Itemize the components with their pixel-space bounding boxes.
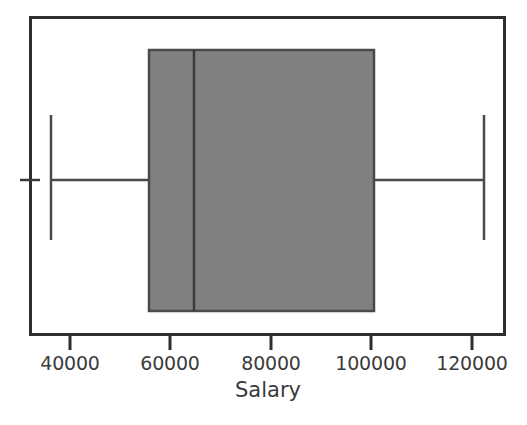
x-tick-label-100000: 100000 xyxy=(335,352,406,374)
iqr-box xyxy=(149,50,374,311)
x-tick-label-120000: 120000 xyxy=(436,352,507,374)
x-axis-ticks xyxy=(70,335,472,350)
box-plot-figure: 40000 60000 80000 100000 120000 Salary xyxy=(0,0,527,425)
x-axis-label: Salary xyxy=(235,378,301,402)
x-tick-label-40000: 40000 xyxy=(40,352,99,374)
x-tick-label-80000: 80000 xyxy=(241,352,300,374)
x-tick-label-60000: 60000 xyxy=(140,352,199,374)
